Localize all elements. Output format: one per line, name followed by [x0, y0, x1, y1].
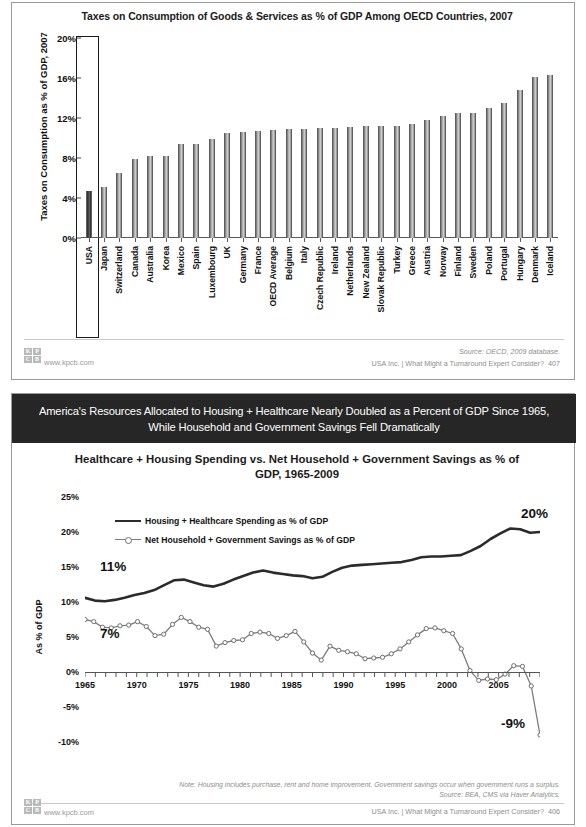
x-axis-label-cell: USA [81, 246, 96, 341]
x-tick-mark [466, 238, 481, 243]
bar-sweden [470, 113, 476, 238]
bar-item[interactable] [420, 38, 435, 238]
legend-label-net-savings: Net Household + Government Savings as % … [145, 535, 355, 545]
x-tick-mark [296, 238, 311, 243]
x-tick-mark [189, 238, 204, 243]
x-axis-label: France [253, 246, 263, 274]
bar-item[interactable] [220, 38, 235, 238]
footer-divider [24, 339, 564, 340]
x-axis-label: New Zealand [361, 246, 371, 299]
x-axis-label-cell: Japan [96, 246, 111, 341]
bar-item[interactable] [466, 38, 481, 238]
bar-korea [163, 156, 169, 238]
bar-item[interactable] [266, 38, 281, 238]
x-tick-label: 1980 [230, 680, 250, 690]
data-point-marker [328, 644, 332, 648]
bar-item[interactable] [527, 38, 542, 238]
data-point-marker [284, 634, 288, 638]
banner-headline-text: America's Resources Allocated to Housing… [12, 403, 576, 435]
bar-chart-plot-area: 0%4%8%12%16%20% [81, 38, 558, 238]
bar-item[interactable] [327, 38, 342, 238]
kpcb-url-link[interactable]: www.kpcb.com [44, 808, 94, 817]
x-axis-label-cell: Korea [158, 246, 173, 341]
bar-czech-republic [317, 128, 323, 238]
y-tick-label: 5% [66, 632, 79, 642]
slide-housing-healthcare-savings: America's Resources Allocated to Housing… [11, 393, 575, 825]
bar-item[interactable] [358, 38, 373, 238]
data-point-marker [372, 656, 376, 660]
data-point-marker [442, 629, 446, 633]
x-tick-mark [527, 238, 542, 243]
x-axis-label: USA [84, 246, 94, 264]
x-axis-label: Slovak Republic [376, 246, 386, 312]
data-point-marker [170, 622, 174, 626]
x-axis-label-cell: Canada [127, 246, 142, 341]
slide-deck-page: Taxes on Consumption of Goods & Services… [0, 0, 586, 827]
bar-item[interactable] [112, 38, 127, 238]
bar-item[interactable] [173, 38, 188, 238]
x-axis-label: Finland [453, 246, 463, 277]
bar-item[interactable] [296, 38, 311, 238]
bar-oecd-average [270, 130, 276, 238]
y-tick-label: 12% [57, 113, 76, 124]
data-point-marker [267, 631, 271, 635]
data-point-marker [398, 647, 402, 651]
bar-item[interactable] [373, 38, 388, 238]
bar-item[interactable] [189, 38, 204, 238]
data-point-marker [197, 625, 201, 629]
source-text: Source: OECD, 2009 database. [459, 347, 560, 356]
x-axis-label: Iceland [545, 246, 555, 276]
logo-letter-p: P [33, 348, 41, 355]
x-axis-label-cell: Australia [143, 246, 158, 341]
bar-australia [147, 156, 153, 238]
bar-item[interactable] [481, 38, 496, 238]
data-point-marker [529, 684, 533, 688]
bar-item[interactable] [512, 38, 527, 238]
x-axis-label: Australia [145, 246, 155, 283]
x-axis-label: Czech Republic [315, 246, 325, 310]
bar-series [81, 38, 558, 238]
x-axis-label: Hungary [515, 246, 525, 281]
bar-item[interactable] [497, 38, 512, 238]
bar-item[interactable] [543, 38, 558, 238]
x-tick-mark [358, 238, 373, 243]
x-axis-label-cell: Italy [296, 246, 311, 341]
data-point-marker [258, 630, 262, 634]
x-axis-label-cell: UK [220, 246, 235, 341]
kpcb-url-link[interactable]: www.kpcb.com [44, 358, 94, 367]
x-axis-label-cell: Belgium [281, 246, 296, 341]
x-axis-label: Spain [191, 246, 201, 269]
bar-item[interactable] [312, 38, 327, 238]
data-point-marker [389, 652, 393, 656]
legend-item-net-savings: Net Household + Government Savings as % … [115, 530, 355, 549]
bar-item[interactable] [235, 38, 250, 238]
bar-item[interactable] [250, 38, 265, 238]
bar-item[interactable] [158, 38, 173, 238]
bar-item[interactable] [96, 38, 111, 238]
bar-item[interactable] [81, 38, 96, 238]
data-point-marker [205, 627, 209, 631]
x-axis-label: UK [222, 246, 232, 258]
annotation-7-percent: 7% [100, 626, 120, 641]
bar-poland [486, 108, 492, 238]
bar-item[interactable] [435, 38, 450, 238]
bar-item[interactable] [450, 38, 465, 238]
bar-item[interactable] [127, 38, 142, 238]
x-axis-label-cell: Norway [435, 246, 450, 341]
data-point-marker [232, 638, 236, 642]
data-point-marker [450, 631, 454, 635]
bar-turkey [394, 126, 400, 238]
x-axis-label-cell: Hungary [512, 246, 527, 341]
footer-deck-title: USA Inc. | What Might a Turnaround Exper… [372, 359, 560, 368]
legend-item-housing-healthcare: Housing + Healthcare Spending as % of GD… [115, 511, 355, 530]
bar-item[interactable] [204, 38, 219, 238]
bar-item[interactable] [281, 38, 296, 238]
x-axis-label: Canada [130, 246, 140, 277]
bar-new-zealand [363, 126, 369, 238]
x-tick-mark [420, 238, 435, 243]
x-tick-mark [327, 238, 342, 243]
bar-item[interactable] [404, 38, 419, 238]
bar-item[interactable] [389, 38, 404, 238]
bar-item[interactable] [143, 38, 158, 238]
bar-item[interactable] [343, 38, 358, 238]
